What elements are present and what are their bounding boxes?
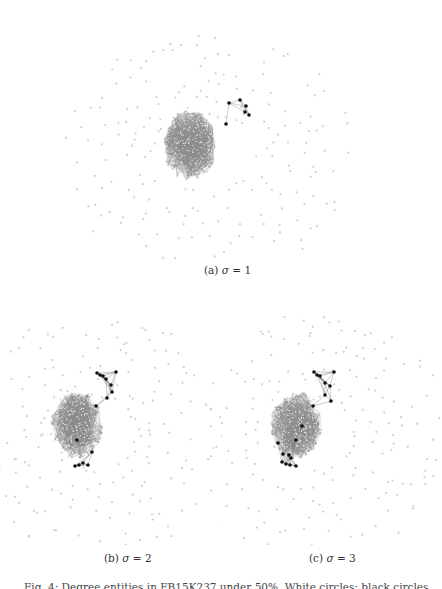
core-node bbox=[318, 414, 319, 415]
core-node bbox=[65, 424, 66, 425]
peripheral-node bbox=[304, 152, 306, 154]
peripheral-node bbox=[174, 257, 176, 259]
core-node bbox=[206, 143, 207, 144]
core-node bbox=[294, 397, 295, 398]
core-node bbox=[309, 436, 310, 437]
core-node bbox=[298, 401, 299, 402]
core-node bbox=[69, 446, 70, 447]
core-node bbox=[286, 396, 287, 397]
core-node bbox=[70, 436, 71, 437]
peripheral-node bbox=[87, 140, 89, 142]
highlighted-node bbox=[77, 463, 81, 467]
core-node bbox=[286, 409, 287, 410]
peripheral-node bbox=[180, 412, 182, 414]
peripheral-node bbox=[101, 397, 103, 399]
highlighted-node bbox=[284, 462, 288, 466]
core-node bbox=[63, 440, 64, 441]
peripheral-node bbox=[279, 193, 281, 195]
core-node bbox=[292, 413, 293, 414]
core-node bbox=[192, 121, 193, 122]
core-node bbox=[182, 155, 183, 156]
peripheral-node bbox=[168, 432, 170, 434]
core-node bbox=[316, 423, 317, 424]
peripheral-node bbox=[296, 191, 298, 193]
core-node bbox=[176, 121, 177, 122]
peripheral-node bbox=[134, 451, 136, 453]
core-node bbox=[305, 429, 306, 430]
core-node bbox=[85, 422, 86, 423]
core-node bbox=[284, 431, 285, 432]
peripheral-node bbox=[236, 372, 238, 374]
peripheral-node bbox=[155, 96, 157, 98]
core-node bbox=[89, 420, 90, 421]
peripheral-node bbox=[117, 463, 119, 465]
core-node bbox=[282, 440, 283, 441]
core-node bbox=[275, 408, 276, 409]
core-node bbox=[204, 172, 205, 173]
core-node bbox=[87, 398, 88, 399]
peripheral-node bbox=[318, 73, 320, 75]
peripheral-node bbox=[138, 428, 140, 430]
core-node bbox=[50, 422, 51, 423]
peripheral-node bbox=[5, 495, 7, 497]
core-node bbox=[213, 133, 214, 134]
core-node bbox=[96, 440, 97, 441]
peripheral-node bbox=[397, 532, 399, 534]
core-node bbox=[197, 135, 198, 136]
core-node bbox=[168, 127, 169, 128]
peripheral-node bbox=[53, 396, 55, 398]
peripheral-node bbox=[111, 324, 113, 326]
core-node bbox=[60, 402, 61, 403]
core-node bbox=[207, 119, 208, 120]
peripheral-node bbox=[177, 352, 179, 354]
peripheral-node bbox=[383, 370, 385, 372]
core-node bbox=[167, 129, 168, 130]
core-node bbox=[165, 145, 166, 146]
core-node bbox=[74, 453, 75, 454]
peripheral-node bbox=[383, 342, 385, 344]
core-node bbox=[81, 424, 82, 425]
peripheral-node bbox=[303, 203, 305, 205]
core-node bbox=[170, 138, 171, 139]
peripheral-node bbox=[372, 471, 374, 473]
peripheral-node bbox=[82, 466, 84, 468]
core-node bbox=[180, 131, 181, 132]
core-node bbox=[205, 133, 206, 134]
peripheral-node bbox=[350, 535, 352, 537]
graph-plot-a bbox=[0, 0, 442, 260]
core-node bbox=[196, 124, 197, 125]
core-node bbox=[299, 420, 300, 421]
core-node bbox=[80, 394, 81, 395]
peripheral-node bbox=[185, 372, 187, 374]
core-node bbox=[318, 426, 319, 427]
core-node bbox=[86, 398, 87, 399]
core-node bbox=[299, 437, 300, 438]
highlighted-node bbox=[109, 383, 113, 387]
core-node bbox=[71, 425, 72, 426]
peripheral-node bbox=[332, 479, 334, 481]
core-node bbox=[205, 126, 206, 127]
core-node bbox=[301, 421, 302, 422]
core-node bbox=[89, 445, 90, 446]
core-node bbox=[306, 444, 307, 445]
peripheral-node bbox=[316, 129, 318, 131]
core-node bbox=[307, 446, 308, 447]
peripheral-node bbox=[333, 201, 335, 203]
peripheral-node bbox=[170, 393, 172, 395]
core-node bbox=[168, 155, 169, 156]
peripheral-node bbox=[270, 336, 272, 338]
core-node bbox=[287, 415, 288, 416]
core-node bbox=[310, 437, 311, 438]
core-node bbox=[175, 154, 176, 155]
core-node bbox=[186, 177, 187, 178]
core-node bbox=[66, 426, 67, 427]
core-node bbox=[93, 427, 94, 428]
core-node bbox=[197, 162, 198, 163]
peripheral-node bbox=[355, 467, 357, 469]
core-node bbox=[204, 144, 205, 145]
core-node bbox=[88, 430, 89, 431]
core-node bbox=[320, 430, 321, 431]
peripheral-node bbox=[255, 429, 257, 431]
core-node bbox=[175, 117, 176, 118]
graph-plot-c bbox=[221, 290, 442, 545]
